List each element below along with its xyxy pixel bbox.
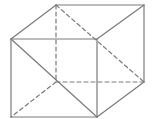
visible-edges: [11, 5, 144, 117]
visible-edge-CG: [97, 82, 144, 117]
cube-drawing: [0, 0, 153, 119]
hidden-edge-HD: [11, 82, 56, 117]
cube-diagram: [0, 0, 153, 119]
visible-edge-AE: [11, 5, 56, 39]
visible-edge-AC: [11, 39, 97, 117]
hidden-edges: [11, 5, 144, 117]
visible-edge-BF: [97, 5, 144, 39]
hidden-edge-EG: [56, 5, 144, 82]
